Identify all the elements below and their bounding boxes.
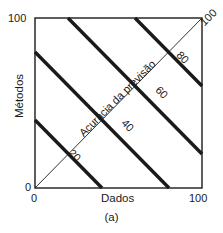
x-axis-tick-100: 100 [189,193,207,204]
y-axis-title: Métodos [13,66,25,126]
x-axis-tick-0: 0 [31,193,37,204]
figure-caption: (a) [0,211,223,223]
y-axis-tick-100: 100 [8,13,26,24]
forecast-accuracy-figure: 20 40 60 80 Acurácia da previsão 100 100… [0,0,223,233]
x-axis-title: Dados [101,192,134,204]
